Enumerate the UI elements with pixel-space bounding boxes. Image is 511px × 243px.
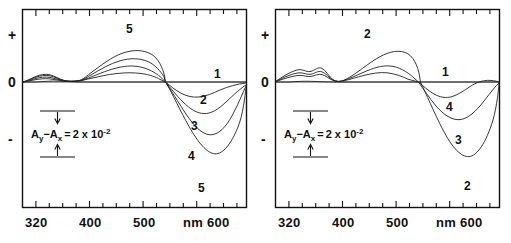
x-tick-label-500: 500	[133, 215, 156, 230]
curve-2	[276, 51, 499, 156]
curve-label-right-1: 1	[442, 65, 449, 79]
bottom-tick-marks	[289, 201, 490, 208]
chart-panel-right: 2 1 4 3 2 + 0 - Ay−Ax=2 x 10-2 320 400 5…	[256, 0, 506, 243]
plot-frame	[23, 10, 247, 208]
x-tick-label-600: 600	[207, 215, 230, 230]
x-axis-unit-label: nm	[183, 215, 203, 230]
curve-label-left-2: 2	[200, 93, 207, 107]
plot-frame	[276, 10, 500, 208]
chart-panel-left: 5 1 2 3 4 5 + 0 - Ay−Ax=2 x 10-2	[0, 0, 250, 243]
y-axis-label-plus: +	[8, 27, 16, 43]
x-tick-label-600: 600	[460, 215, 483, 230]
curve-label-right-4: 2	[464, 179, 471, 193]
curve-label-left-3: 3	[191, 119, 198, 133]
curve-3	[276, 66, 499, 120]
x-tick-label-400: 400	[79, 215, 102, 230]
x-tick-label-320: 320	[278, 215, 301, 230]
x-tick-label-500: 500	[386, 215, 409, 230]
curve-label-right-3: 3	[455, 133, 462, 147]
bottom-tick-marks	[36, 201, 237, 208]
curve-4	[23, 59, 246, 135]
curve-4	[276, 73, 499, 98]
x-tick-label-400: 400	[332, 215, 355, 230]
linear-dichroism-figure: 5 1 2 3 4 5 + 0 - Ay−Ax=2 x 10-2	[0, 0, 511, 243]
y-axis-label-zero: 0	[8, 74, 16, 90]
y-axis-label-zero: 0	[261, 74, 269, 90]
chart-svg-left: 5 1 2 3 4 5 + 0 - Ay−Ax=2 x 10-2	[0, 0, 250, 243]
top-tick-marks	[289, 10, 490, 17]
curve-2	[23, 73, 246, 97]
y-axis-label-plus: +	[261, 27, 269, 43]
curve-label-right-2: 4	[446, 100, 453, 114]
top-tick-marks	[36, 10, 237, 17]
x-tick-label-320: 320	[25, 215, 48, 230]
scale-annotation-text: Ay−Ax=2 x 10-2	[31, 127, 111, 143]
curve-label-left-0: 5	[126, 22, 133, 36]
curve-label-right-0: 2	[364, 27, 371, 41]
chart-svg-right: 2 1 4 3 2 + 0 - Ay−Ax=2 x 10-2 320 400 5…	[256, 0, 506, 243]
x-axis-unit-label: nm	[436, 215, 456, 230]
y-axis-label-minus: -	[261, 131, 266, 147]
curve-label-left-4: 4	[188, 149, 195, 163]
curve-label-left-1: 1	[214, 67, 221, 81]
scale-annotation-text: Ay−Ax=2 x 10-2	[284, 127, 364, 143]
y-axis-label-minus: -	[8, 131, 13, 147]
curve-label-left-5: 5	[198, 181, 205, 195]
